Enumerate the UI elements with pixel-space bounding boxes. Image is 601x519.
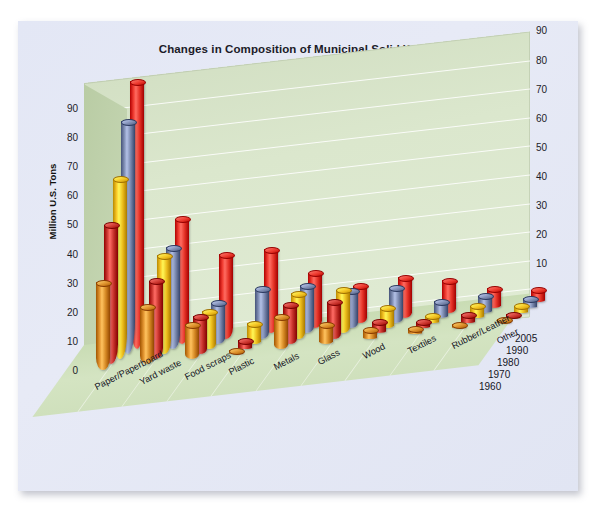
bar-cap xyxy=(166,245,182,252)
bar-1960-wood xyxy=(363,330,377,339)
bar-1960-metals xyxy=(274,317,288,349)
y-tick-left-90: 90 xyxy=(54,103,78,114)
gridline xyxy=(84,146,530,199)
chart-panel: Changes in Composition of Municipal Soli… xyxy=(18,21,578,491)
bar-cap xyxy=(398,275,414,282)
bar-cap xyxy=(300,283,316,290)
bar-1960-paper-paperboard xyxy=(96,282,110,369)
gridline xyxy=(84,232,530,285)
bar-cap xyxy=(96,280,112,287)
y-tick-left-50: 50 xyxy=(54,219,78,230)
depth-label-1960: 1960 xyxy=(479,381,501,392)
bar-cap xyxy=(229,348,245,355)
bar-cap xyxy=(185,322,201,329)
bar-cap xyxy=(487,286,503,293)
bar-body xyxy=(96,282,110,369)
y-tick-right-40: 40 xyxy=(536,171,560,182)
bar-cap xyxy=(408,326,424,333)
y-tick-left-60: 60 xyxy=(54,190,78,201)
y-tick-right-20: 20 xyxy=(536,229,560,240)
bar-body xyxy=(185,324,199,359)
bar-cap xyxy=(157,253,173,260)
y-tick-right-80: 80 xyxy=(536,55,560,66)
depth-label-1970: 1970 xyxy=(488,369,510,380)
gridline xyxy=(84,60,530,113)
gridline xyxy=(84,174,530,227)
y-tick-right-60: 60 xyxy=(536,113,560,124)
bar-cap xyxy=(264,247,280,254)
bar-cap xyxy=(523,296,539,303)
y-tick-right-10: 10 xyxy=(536,258,560,269)
bar-cap xyxy=(283,302,299,309)
bar-cap xyxy=(452,322,468,329)
y-tick-left-0: 0 xyxy=(54,365,78,376)
bar-cap xyxy=(193,314,209,321)
bar-1960-textiles xyxy=(408,328,422,333)
depth-label-1990: 1990 xyxy=(506,345,528,356)
y-tick-left-20: 20 xyxy=(54,307,78,318)
bar-cap xyxy=(319,322,335,329)
gridline xyxy=(84,117,530,170)
y-axis-title: Million U.S. Tons xyxy=(47,142,58,262)
bar-cap xyxy=(247,321,263,328)
bar-body xyxy=(274,317,288,349)
gridline xyxy=(84,89,530,142)
bar-cap xyxy=(434,299,450,306)
y-tick-right-50: 50 xyxy=(536,142,560,153)
y-tick-right-90: 90 xyxy=(536,25,560,36)
bar-1960-rubber-leather xyxy=(452,324,466,328)
y-tick-left-10: 10 xyxy=(54,336,78,347)
bar-1960-glass xyxy=(319,324,333,344)
y-tick-right-70: 70 xyxy=(536,84,560,95)
bar-1960-food-scraps xyxy=(185,324,199,359)
bar-cap xyxy=(238,338,254,345)
bar-cap xyxy=(140,304,156,311)
bar-1960-plastic xyxy=(229,350,243,354)
depth-label-2005: 2005 xyxy=(515,333,537,344)
bar-cap xyxy=(442,278,458,285)
bar-cap xyxy=(461,312,477,319)
bar-cap xyxy=(130,79,146,86)
y-tick-left-70: 70 xyxy=(54,161,78,172)
y-tick-left-40: 40 xyxy=(54,249,78,260)
bar-cap xyxy=(219,252,235,259)
gridline xyxy=(84,203,530,256)
bar-cap xyxy=(121,119,137,126)
y-tick-right-30: 30 xyxy=(536,200,560,211)
bar-cap xyxy=(175,216,191,223)
y-tick-left-80: 80 xyxy=(54,132,78,143)
depth-label-1980: 1980 xyxy=(497,357,519,368)
y-tick-left-30: 30 xyxy=(54,278,78,289)
